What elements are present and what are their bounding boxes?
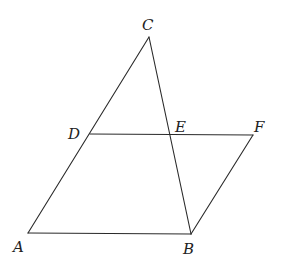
label-C: C xyxy=(142,16,154,34)
segment-FB xyxy=(191,135,253,234)
label-E: E xyxy=(174,118,186,136)
segment-DF xyxy=(90,134,253,135)
label-D: D xyxy=(67,125,80,143)
label-B: B xyxy=(182,240,194,258)
segments xyxy=(28,37,253,234)
point-labels: A B C D E F xyxy=(11,16,265,258)
label-A: A xyxy=(11,238,24,256)
segment-AC xyxy=(28,37,149,233)
label-F: F xyxy=(253,118,265,136)
segment-AB xyxy=(28,233,191,234)
geometry-diagram: A B C D E F xyxy=(0,0,286,274)
